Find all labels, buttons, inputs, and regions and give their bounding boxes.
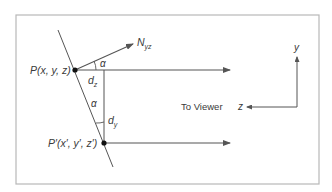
projection-diagram: P(x, y, z) P′(x′, y′, z′) Nyz α α dz dy …	[0, 0, 332, 192]
point-p-prime	[101, 140, 106, 145]
label-p-prime: P′(x′, y′, z′)	[48, 137, 97, 149]
point-p	[72, 67, 77, 72]
angle-arc-top	[94, 61, 96, 70]
label-dz: dz	[88, 74, 98, 88]
label-alpha-bottom: α	[91, 98, 97, 109]
label-p: P(x, y, z)	[30, 64, 71, 76]
label-z-axis: z	[237, 101, 243, 112]
label-y-axis: y	[293, 42, 300, 53]
angle-arc-bottom	[96, 122, 104, 123]
label-dy: dy	[108, 114, 118, 129]
label-alpha-top: α	[100, 58, 106, 69]
diagram-frame	[16, 15, 319, 184]
label-normal: Nyz	[137, 36, 152, 51]
label-to-viewer: To Viewer	[181, 101, 223, 112]
